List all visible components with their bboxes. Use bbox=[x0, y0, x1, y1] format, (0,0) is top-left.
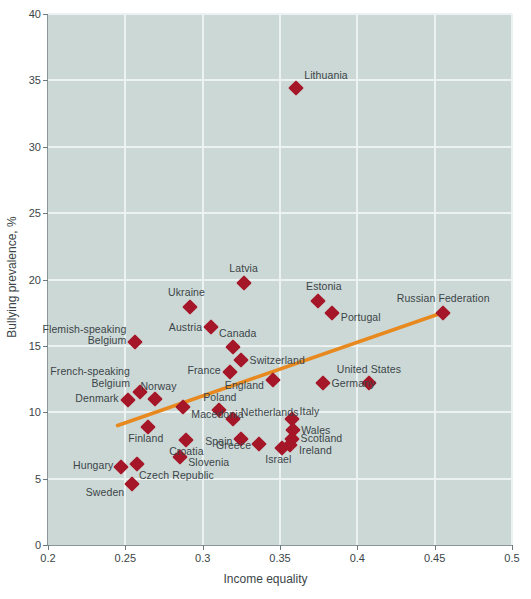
x-tick-label: 0.3 bbox=[195, 552, 210, 564]
x-tick-label: 0.25 bbox=[115, 552, 136, 564]
data-point-label: Israel bbox=[265, 454, 291, 466]
x-tick-mark bbox=[48, 545, 49, 550]
data-point-label: French-speaking Belgium bbox=[50, 366, 130, 389]
data-point-label: Norway bbox=[140, 381, 176, 393]
data-point-label: Sweden bbox=[86, 487, 125, 499]
x-tick-mark bbox=[203, 545, 204, 550]
y-tick-label: 40 bbox=[29, 8, 41, 20]
y-tick-mark bbox=[43, 147, 48, 148]
y-tick-label: 25 bbox=[29, 207, 41, 219]
x-tick-label: 0.45 bbox=[424, 552, 445, 564]
y-tick-label: 35 bbox=[29, 74, 41, 86]
data-point-label: Slovenia bbox=[188, 458, 229, 470]
x-tick-mark bbox=[435, 545, 436, 550]
x-tick-label: 0.35 bbox=[269, 552, 290, 564]
y-tick-mark bbox=[43, 412, 48, 413]
y-tick-mark bbox=[43, 213, 48, 214]
x-tick-label: 0.2 bbox=[40, 552, 55, 564]
data-point-label: Portugal bbox=[341, 312, 381, 324]
data-point-label: Lithuania bbox=[304, 71, 348, 83]
data-point-label: Finland bbox=[128, 433, 163, 445]
scatter-chart-figure: LithuaniaLatviaEstoniaPortugalUkraineRus… bbox=[0, 0, 531, 599]
x-tick-label: 0.4 bbox=[350, 552, 365, 564]
data-point-label: Scotland bbox=[301, 433, 343, 445]
y-tick-mark bbox=[43, 346, 48, 347]
data-point-label: Spain bbox=[205, 436, 232, 448]
data-point-label: Netherlands bbox=[241, 407, 299, 419]
y-tick-label: 5 bbox=[35, 473, 41, 485]
y-tick-mark bbox=[43, 280, 48, 281]
data-point-label: Russian Federation bbox=[397, 293, 490, 305]
data-point-label: Hungary bbox=[73, 460, 113, 472]
data-point-label: Latvia bbox=[229, 264, 258, 276]
x-tick-mark bbox=[280, 545, 281, 550]
y-tick-label: 10 bbox=[29, 406, 41, 418]
data-point-label: Macedonia bbox=[191, 409, 243, 421]
y-tick-label: 20 bbox=[29, 274, 41, 286]
x-tick-mark bbox=[125, 545, 126, 550]
data-point-label: Ukraine bbox=[168, 288, 205, 300]
data-point-label: Poland bbox=[203, 392, 236, 404]
data-point-label: United States bbox=[337, 364, 401, 376]
y-tick-mark bbox=[43, 14, 48, 15]
y-tick-mark bbox=[43, 545, 48, 546]
data-point-label: Czech Republic bbox=[139, 470, 214, 482]
data-point-label: Canada bbox=[219, 328, 256, 340]
y-tick-label: 30 bbox=[29, 141, 41, 153]
data-point-label: Ireland bbox=[299, 446, 332, 458]
data-point-label: Estonia bbox=[306, 281, 342, 293]
y-tick-mark bbox=[43, 80, 48, 81]
data-point-label: Italy bbox=[300, 406, 320, 418]
x-tick-mark bbox=[357, 545, 358, 550]
y-axis-label: Bullying prevalence, % bbox=[5, 187, 19, 367]
y-tick-label: 0 bbox=[35, 539, 41, 551]
x-tick-label: 0.5 bbox=[504, 552, 519, 564]
data-point-label: Austria bbox=[169, 323, 202, 335]
x-axis-label: Income equality bbox=[0, 572, 531, 586]
data-point-label: Germany bbox=[332, 378, 376, 390]
data-labels-layer: LithuaniaLatviaEstoniaPortugalUkraineRus… bbox=[0, 0, 531, 599]
y-tick-mark bbox=[43, 479, 48, 480]
data-point-label: France bbox=[187, 366, 220, 378]
data-point-label: Switzerland bbox=[250, 356, 305, 368]
data-point-label: Denmark bbox=[75, 394, 118, 406]
data-point-label: Flemish-speaking Belgium bbox=[42, 323, 126, 346]
y-tick-label: 15 bbox=[29, 340, 41, 352]
x-tick-mark bbox=[512, 545, 513, 550]
